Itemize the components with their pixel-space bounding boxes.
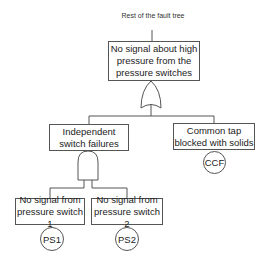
pressure-switch-2-text: No signal from pressure switch 2 bbox=[92, 194, 162, 230]
or-gate-icon bbox=[141, 81, 161, 108]
and-gate-icon bbox=[78, 151, 98, 180]
common-tap-text: Common tap blocked with solids bbox=[174, 125, 254, 149]
ps2-label: PS2 bbox=[118, 234, 136, 245]
top-event-box: No signal about high pressure from the p… bbox=[108, 41, 200, 81]
top-event-text: No signal about high pressure from the p… bbox=[109, 43, 199, 79]
ccf-label: CCF bbox=[205, 157, 225, 168]
pressure-switch-1-box: No signal from pressure switch 1 bbox=[15, 198, 85, 225]
independent-failures-text: Independent switch failures bbox=[50, 126, 128, 150]
rest-of-fault-tree-label: Rest of the fault tree bbox=[118, 11, 188, 20]
pressure-switch-2-box: No signal from pressure switch 2 bbox=[91, 198, 163, 225]
ccf-basic-event: CCF bbox=[203, 151, 226, 174]
ps1-label: PS1 bbox=[43, 234, 61, 245]
ps2-basic-event: PS2 bbox=[115, 227, 139, 251]
pressure-switch-1-text: No signal from pressure switch 1 bbox=[16, 194, 84, 230]
ps1-basic-event: PS1 bbox=[40, 227, 64, 251]
common-tap-box: Common tap blocked with solids bbox=[173, 123, 255, 150]
independent-failures-box: Independent switch failures bbox=[49, 124, 129, 151]
